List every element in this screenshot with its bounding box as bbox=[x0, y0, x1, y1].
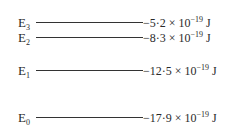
level-e1: E1 −12·5 × 10−19 J bbox=[0, 60, 244, 80]
level-label: E2 bbox=[18, 31, 30, 49]
level-value: −17·9 × 10−19 J bbox=[143, 109, 217, 124]
level-line bbox=[36, 117, 143, 118]
level-line bbox=[36, 37, 143, 38]
level-value: −12·5 × 10−19 J bbox=[143, 62, 217, 77]
level-e2: E2 −8·3 × 10−19 J bbox=[0, 27, 244, 47]
level-line bbox=[36, 22, 143, 23]
level-line bbox=[36, 70, 143, 71]
level-e0: E0 −17·9 × 10−19 J bbox=[0, 107, 244, 127]
level-label: E1 bbox=[18, 64, 30, 82]
level-value: −8·3 × 10−19 J bbox=[143, 29, 211, 44]
level-label: E0 bbox=[18, 111, 30, 127]
